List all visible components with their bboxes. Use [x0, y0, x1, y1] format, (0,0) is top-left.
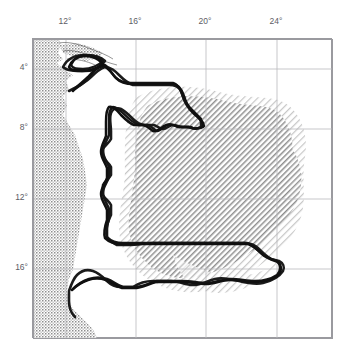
map-canvas — [33, 39, 333, 339]
y-axis-tick-8: 8° — [0, 122, 28, 132]
x-axis-tick-12: 12° — [45, 16, 85, 26]
map-plot-frame — [32, 38, 332, 338]
x-axis-tick-16: 16° — [115, 16, 155, 26]
y-axis-tick-16: 16° — [0, 262, 28, 272]
x-axis-tick-24: 24° — [256, 16, 296, 26]
y-axis-tick-12: 12° — [0, 192, 28, 202]
x-axis-tick-20: 20° — [185, 16, 225, 26]
y-axis-tick-4: 4° — [0, 62, 28, 72]
figure-title — [0, 0, 350, 6]
distribution-map-figure: 12° 16° 20° 24° 4° 8° 12° 16° — [0, 0, 350, 354]
